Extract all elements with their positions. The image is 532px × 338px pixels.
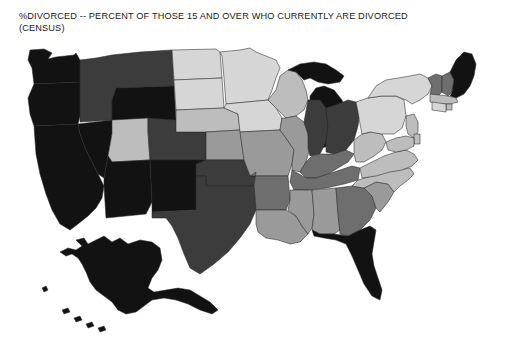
state-DE (414, 134, 420, 144)
state-RI (446, 104, 452, 110)
aleutian-island-5 (42, 286, 48, 292)
state-MD (386, 136, 414, 152)
state-AZ (104, 156, 152, 218)
figure-title-line-2: (CENSUS) (19, 22, 519, 34)
state-FL (312, 226, 382, 300)
state-MN (220, 48, 280, 104)
state-UT (108, 118, 150, 162)
aleutian-island-3 (86, 322, 94, 328)
state-AR (250, 172, 290, 210)
figure-title-line-1: %DIVORCED -- PERCENT OF THOSE 15 AND OVE… (19, 10, 519, 22)
state-PA (356, 96, 406, 134)
map-svg-canvas (0, 38, 532, 334)
state-CT (432, 102, 446, 112)
figure-title-block: %DIVORCED -- PERCENT OF THOSE 15 AND OVE… (19, 10, 519, 34)
aleutian-island-2 (74, 316, 82, 322)
choropleth-figure: %DIVORCED -- PERCENT OF THOSE 15 AND OVE… (0, 0, 532, 338)
state-OR (28, 82, 80, 126)
aleutian-island-1 (62, 308, 70, 314)
state-ND (172, 49, 222, 80)
state-NE (176, 108, 240, 132)
us-choropleth-map (0, 38, 532, 334)
state-WA (28, 49, 80, 84)
aleutian-island-4 (98, 326, 106, 332)
state-ME (450, 52, 476, 98)
state-AL (312, 188, 340, 234)
state-WY (112, 86, 176, 122)
state-KS (206, 130, 244, 160)
state-SD (174, 78, 224, 110)
